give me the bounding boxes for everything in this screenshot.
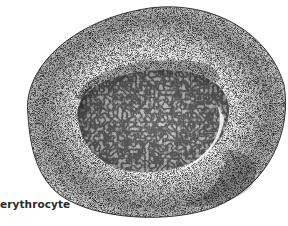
figure-label: erythrocyte (0, 198, 70, 210)
erythrocyte-illustration (0, 0, 288, 226)
